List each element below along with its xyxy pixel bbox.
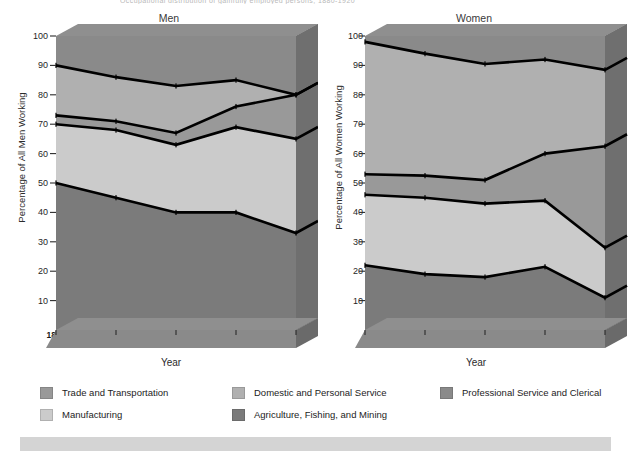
legend-label: Manufacturing [62, 408, 122, 422]
legend-label: Domestic and Personal Service [254, 386, 387, 400]
chart-panel-men: Men Percentage of All Men Working Year 1… [0, 0, 318, 380]
legend-swatch [40, 409, 53, 421]
plot-area-women [311, 0, 629, 380]
legend-swatch [40, 387, 53, 399]
legend-label: Professional Service and Clerical [462, 386, 601, 400]
legend-swatch [232, 387, 245, 399]
legend-label: Agriculture, Fishing, and Mining [254, 408, 387, 422]
figure-root: Occupational distribution of gainfully e… [0, 0, 629, 457]
legend: Trade and TransportationDomestic and Per… [0, 386, 629, 434]
legend-label: Trade and Transportation [62, 386, 168, 400]
plot-area-men [0, 0, 318, 380]
legend-swatch [232, 409, 245, 421]
chart-panel-women: Women Percentage of All Women Working Ye… [311, 0, 629, 380]
footer-bar [20, 437, 611, 451]
legend-swatch [440, 387, 453, 399]
